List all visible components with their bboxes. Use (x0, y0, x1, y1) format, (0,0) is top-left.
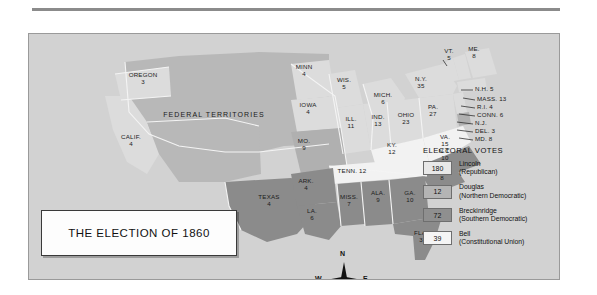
map-title-box: THE ELECTION OF 1860 (41, 210, 237, 256)
legend-label-lincoln: Lincoln (Republican) (459, 160, 498, 176)
legend-votes-douglas: 12 (434, 188, 442, 195)
legend-candidate-bell: Bell (459, 230, 524, 238)
legend-votes-lincoln: 180 (432, 165, 444, 172)
compass-east-label: E (363, 275, 368, 280)
legend: ELECTORAL VOTES 180 Lincoln (Republican)… (423, 146, 560, 254)
election-map: .lincoln{fill:#dcdcdc;} .douglas{fill:#b… (28, 33, 560, 280)
legend-label-bell: Bell (Constitutional Union) (459, 230, 524, 246)
legend-label-douglas: Douglas (Northern Democratic) (459, 183, 526, 199)
compass-north-label: N (340, 250, 345, 257)
legend-swatch-bell: 39 (423, 231, 452, 245)
legend-row-douglas: 12 Douglas (Northern Democratic) (423, 183, 560, 199)
compass-west-label: W (315, 275, 322, 280)
legend-label-breckinridge: Breckinridge (Southern Democratic) (459, 207, 527, 223)
legend-swatch-breckinridge: 72 (423, 208, 452, 222)
legend-candidate-douglas: Douglas (459, 183, 526, 191)
legend-swatch-lincoln: 180 (423, 161, 452, 175)
legend-party-bell: (Constitutional Union) (459, 238, 524, 246)
legend-party-breckinridge: (Southern Democratic) (459, 215, 527, 223)
legend-candidate-lincoln: Lincoln (459, 160, 498, 168)
legend-candidate-breckinridge: Breckinridge (459, 207, 527, 215)
compass-rose: N S E W (316, 252, 372, 280)
legend-row-bell: 39 Bell (Constitutional Union) (423, 230, 560, 246)
legend-swatch-douglas: 12 (423, 185, 452, 199)
legend-heading: ELECTORAL VOTES (423, 146, 560, 155)
map-title-text: THE ELECTION OF 1860 (68, 227, 210, 239)
legend-row-breckinridge: 72 Breckinridge (Southern Democratic) (423, 207, 560, 223)
top-divider-rule (32, 8, 560, 11)
legend-row-lincoln: 180 Lincoln (Republican) (423, 160, 560, 176)
legend-votes-breckinridge: 72 (434, 212, 442, 219)
legend-votes-bell: 39 (434, 235, 442, 242)
legend-party-douglas: (Northern Democratic) (459, 192, 526, 200)
legend-party-lincoln: (Republican) (459, 168, 498, 176)
